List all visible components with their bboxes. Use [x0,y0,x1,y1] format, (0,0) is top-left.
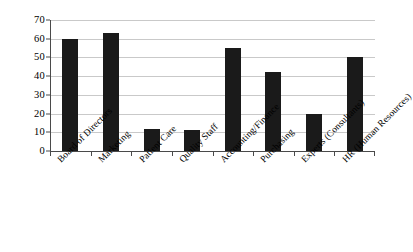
y-tick-mark [46,113,50,114]
y-tick-label: 0 [40,146,45,157]
y-tick-mark [46,38,50,39]
bar[interactable] [62,39,78,151]
x-tick-mark [374,151,375,156]
y-tick-label: 50 [34,52,45,63]
y-tick-mark [46,94,50,95]
x-tick-mark [50,151,51,156]
y-tick-mark [46,76,50,77]
x-tick-mark [131,151,132,156]
y-tick-label: 70 [34,15,45,26]
x-tick-mark [253,151,254,156]
x-tick-mark [91,151,92,156]
y-tick-label: 20 [34,108,45,119]
x-tick-mark [172,151,173,156]
x-tick-mark [334,151,335,156]
x-tick-mark [213,151,214,156]
y-axis-tick-labels: 010203040506070 [0,20,45,151]
y-tick-label: 60 [34,33,45,44]
y-axis-line [50,20,51,152]
x-tick-mark [294,151,295,156]
y-tick-label: 30 [34,90,45,101]
y-tick-mark [46,132,50,133]
y-tick-label: 10 [34,127,45,138]
y-tick-mark [46,57,50,58]
bar[interactable] [103,33,119,151]
y-tick-mark [46,20,50,21]
y-tick-label: 40 [34,71,45,82]
